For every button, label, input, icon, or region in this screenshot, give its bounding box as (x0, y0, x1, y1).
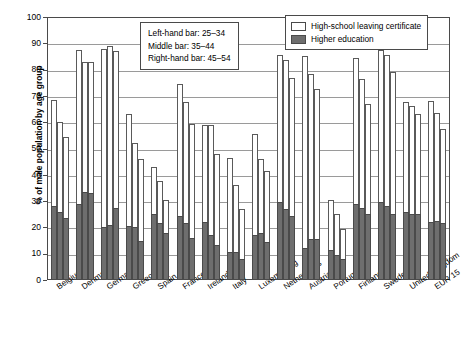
bar-higher-education (113, 208, 119, 280)
annotation-line-right: Right-hand bar: 45–54 (148, 52, 231, 65)
bar-higher-education (88, 193, 94, 280)
chart-container: % of male population by age group 010203… (0, 0, 462, 337)
legend-label-high-school: High-school leaving certificate (311, 22, 421, 31)
bar-higher-education (264, 242, 270, 280)
bar-higher-education (415, 214, 421, 280)
age-group-annotation: Left-hand bar: 25–34 Middle bar: 35–44 R… (140, 22, 239, 70)
bar-higher-education (138, 241, 144, 280)
bar-higher-education (214, 245, 220, 281)
annotation-line-middle: Middle bar: 35–44 (148, 40, 231, 53)
chart-legend: High-school leaving certificate Higher e… (285, 15, 428, 50)
bar-higher-education (239, 259, 245, 280)
bar-higher-education (365, 214, 371, 280)
legend-item-high-school: High-school leaving certificate (291, 20, 421, 32)
legend-swatch-white-icon (291, 22, 306, 31)
annotation-line-left: Left-hand bar: 25–34 (148, 27, 231, 40)
bar-higher-education (163, 233, 169, 280)
bar-higher-education (440, 223, 446, 280)
bar-higher-education (63, 218, 69, 280)
bar-higher-education (314, 239, 320, 280)
legend-swatch-dark-icon (291, 35, 306, 44)
bar-higher-education (189, 238, 195, 280)
bar-higher-education (390, 214, 396, 280)
bar-group (97, 17, 122, 280)
bar-higher-education (289, 216, 295, 280)
legend-item-higher-education: Higher education (291, 33, 421, 45)
bar-higher-education (340, 259, 346, 280)
legend-label-higher-education: Higher education (311, 35, 374, 44)
